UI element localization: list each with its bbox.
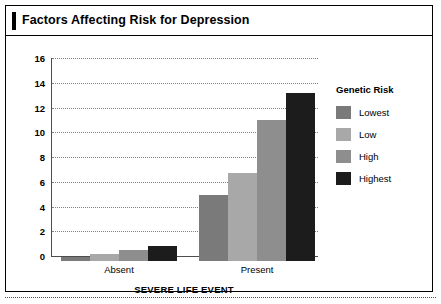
legend-items: LowestLowHighHighest <box>336 104 428 187</box>
legend-item-label: High <box>359 151 379 162</box>
legend-swatch <box>336 150 351 163</box>
bar <box>148 246 177 261</box>
x-axis-group-label: Absent <box>104 264 134 275</box>
legend-item-label: Highest <box>359 173 391 184</box>
y-axis-tick-label: 6 <box>40 176 45 187</box>
bar-plot: 0246810121416 AbsentPresent <box>51 58 318 262</box>
bar <box>257 120 286 261</box>
bar <box>228 173 257 261</box>
legend-item[interactable]: High <box>336 148 428 165</box>
chart-title-bar: Factors Affecting Risk for Depression <box>6 6 432 36</box>
gridline <box>52 108 318 109</box>
y-axis-tick-label: 0 <box>40 251 45 262</box>
bar <box>199 195 228 261</box>
bar <box>90 254 119 261</box>
y-axis-tick-label: 16 <box>34 53 45 64</box>
legend: Genetic Risk LowestLowHighHighest <box>336 84 428 192</box>
y-axis-line <box>51 58 52 257</box>
legend-title: Genetic Risk <box>336 84 428 95</box>
bar <box>119 250 148 261</box>
legend-swatch <box>336 172 351 185</box>
y-axis-tick-label: 2 <box>40 226 45 237</box>
bar <box>61 257 90 261</box>
legend-item[interactable]: Lowest <box>336 104 428 121</box>
legend-item[interactable]: Highest <box>336 170 428 187</box>
y-axis-tick-label: 4 <box>40 201 45 212</box>
legend-swatch <box>336 128 351 141</box>
y-axis-tick-label: 8 <box>40 152 45 163</box>
plot-area: 0246810121416 AbsentPresent SEVERE LIFE … <box>6 36 432 292</box>
gridline <box>52 83 318 84</box>
y-axis-tick-label: 14 <box>34 77 45 88</box>
gridline <box>52 58 318 59</box>
legend-item[interactable]: Low <box>336 126 428 143</box>
page-title: Factors Affecting Risk for Depression <box>22 13 250 27</box>
bottom-divider <box>5 297 436 298</box>
y-axis-tick-label: 12 <box>34 102 45 113</box>
y-axis-tick-label: 10 <box>34 127 45 138</box>
x-axis-title: SEVERE LIFE EVENT <box>134 284 233 295</box>
x-axis-group-label: Present <box>241 264 274 275</box>
title-accent-bar <box>12 12 16 30</box>
legend-item-label: Lowest <box>359 107 389 118</box>
chart-figure: Factors Affecting Risk for Depression 02… <box>5 5 433 292</box>
legend-item-label: Low <box>359 129 376 140</box>
bar <box>286 93 315 261</box>
legend-swatch <box>336 106 351 119</box>
